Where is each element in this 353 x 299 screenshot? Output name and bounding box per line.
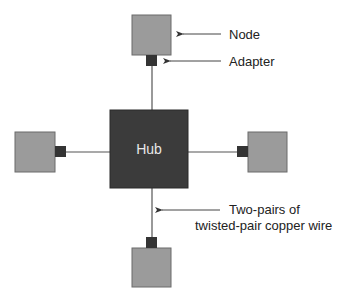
node-left <box>15 132 55 172</box>
adapter-bottom <box>146 237 157 248</box>
hub-label: Hub <box>110 141 188 157</box>
wire-annotation-line1: Two-pairs of <box>229 202 300 217</box>
adapter-top <box>146 55 157 66</box>
node-top <box>132 15 171 55</box>
node-right <box>248 132 287 172</box>
adapter-annotation: Adapter <box>229 54 275 69</box>
adapter-right <box>237 146 248 157</box>
node-annotation: Node <box>229 27 260 42</box>
wire-annotation-line2: twisted-pair copper wire <box>195 218 332 233</box>
adapter-left <box>55 146 66 157</box>
node-bottom <box>132 248 171 287</box>
